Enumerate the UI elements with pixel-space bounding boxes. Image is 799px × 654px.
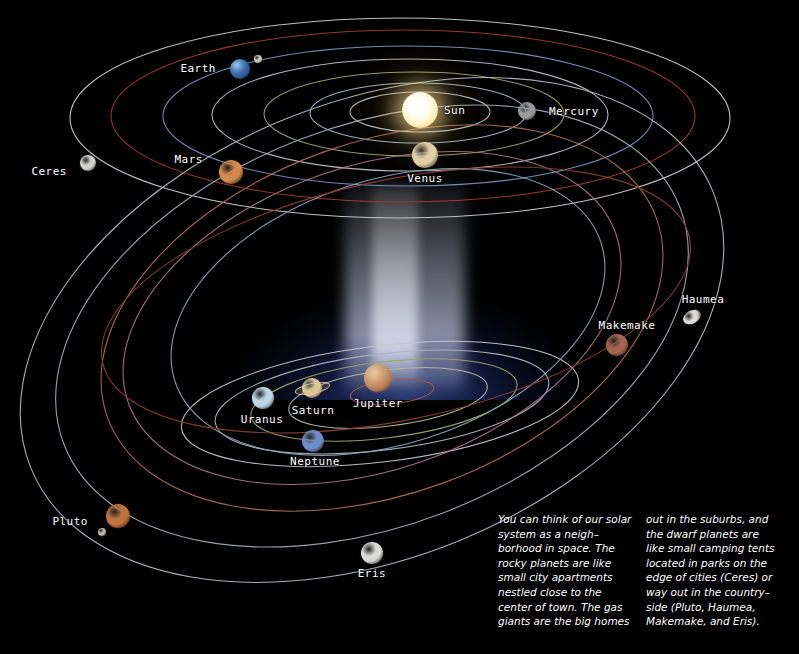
orbit-dwarf-red bbox=[78, 120, 715, 480]
light-beam-core bbox=[372, 185, 418, 390]
body-mars bbox=[219, 160, 243, 184]
label-eris: Eris bbox=[358, 567, 387, 580]
label-neptune: Neptune bbox=[290, 455, 340, 468]
label-haumea: Haumea bbox=[682, 293, 725, 306]
body-venus bbox=[412, 142, 438, 168]
label-sun: Sun bbox=[444, 104, 465, 117]
body-ceres bbox=[80, 155, 96, 171]
light-beam bbox=[345, 180, 465, 395]
body-jupiter bbox=[364, 364, 392, 392]
body-haumea bbox=[681, 307, 704, 327]
orbit-dwarf-paleblue bbox=[134, 117, 642, 507]
label-venus: Venus bbox=[407, 172, 443, 185]
saturn-rings bbox=[312, 388, 313, 389]
body-neptune bbox=[302, 430, 324, 452]
label-makemake: Makemake bbox=[599, 319, 656, 332]
body-charon bbox=[98, 528, 106, 536]
label-earth: Earth bbox=[180, 62, 216, 75]
label-jupiter: Jupiter bbox=[353, 397, 403, 410]
label-uranus: Uranus bbox=[241, 413, 284, 426]
body-uranus bbox=[252, 387, 274, 409]
label-ceres: Ceres bbox=[31, 165, 67, 178]
label-mercury: Mercury bbox=[549, 105, 599, 118]
caption-block: You can think of our solar system as a n… bbox=[498, 512, 788, 629]
orbit-upper-outer-white bbox=[70, 18, 730, 218]
body-earth bbox=[230, 59, 250, 79]
body-mercury bbox=[518, 102, 536, 120]
orbit-dwarf-mauve bbox=[79, 90, 666, 545]
body-pluto bbox=[106, 504, 130, 528]
central-glow bbox=[205, 175, 605, 400]
body-makemake bbox=[606, 334, 628, 356]
body-moon bbox=[254, 55, 262, 63]
label-pluto: Pluto bbox=[52, 515, 88, 528]
body-eris bbox=[361, 542, 383, 564]
caption-column-2: out in the suburbs, and the dwarf planet… bbox=[646, 512, 780, 629]
solar-system-diagram: SunMercuryVenusEarthMarsCeresJupiterSatu… bbox=[0, 0, 799, 654]
label-saturn: Saturn bbox=[292, 404, 335, 417]
caption-column-1: You can think of our solar system as a n… bbox=[498, 512, 632, 629]
body-sun bbox=[402, 92, 438, 128]
label-mars: Mars bbox=[175, 153, 204, 166]
